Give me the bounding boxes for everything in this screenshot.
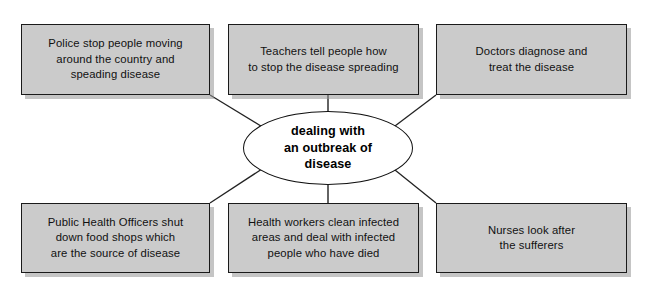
- node-box-public-health-officers[interactable]: Public Health Officers shut down food sh…: [21, 203, 210, 273]
- connector-doctors-to-center: [391, 95, 436, 129]
- spider-diagram: Police stop people moving around the cou…: [0, 0, 649, 295]
- center-node-label: dealing with an outbreak of disease: [284, 123, 372, 173]
- node-label-police: Police stop people moving around the cou…: [42, 36, 188, 82]
- node-box-teachers[interactable]: Teachers tell people how to stop the dis…: [228, 24, 419, 95]
- node-label-teachers: Teachers tell people how to stop the dis…: [242, 44, 405, 75]
- node-label-doctors: Doctors diagnose and treat the disease: [470, 44, 594, 75]
- connector-public-health-officers-to-center: [210, 165, 268, 203]
- node-box-health-workers[interactable]: Health workers clean infected areas and …: [228, 203, 419, 273]
- node-label-public-health-officers: Public Health Officers shut down food sh…: [42, 215, 190, 261]
- node-label-nurses: Nurses look after the sufferers: [482, 223, 581, 254]
- center-node-outbreak[interactable]: dealing with an outbreak of disease: [243, 111, 413, 185]
- connector-nurses-to-center: [390, 166, 436, 203]
- node-box-nurses[interactable]: Nurses look after the sufferers: [436, 203, 627, 273]
- node-box-police[interactable]: Police stop people moving around the cou…: [21, 24, 210, 95]
- node-box-doctors[interactable]: Doctors diagnose and treat the disease: [436, 24, 627, 95]
- node-label-health-workers: Health workers clean infected areas and …: [242, 215, 405, 261]
